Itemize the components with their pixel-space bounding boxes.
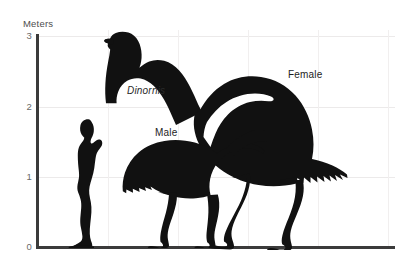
label-male: Male [155, 127, 177, 138]
label-dinornis: Dinornis [127, 85, 165, 96]
label-female: Female [288, 69, 323, 80]
y-tick-0-label: 0 [6, 241, 32, 252]
moa-male-silhouette-shape [122, 130, 268, 248]
gridline-vertical-5 [388, 30, 389, 247]
moa-size-comparison-chart: Meters 3 2 1 0 [0, 0, 419, 264]
y-axis-line [36, 34, 39, 249]
y-axis-title: Meters [23, 18, 53, 29]
y-tick-1-label: 1 [6, 171, 32, 182]
y-tick-3-label: 3 [6, 30, 32, 41]
y-tick-2-label: 2 [6, 101, 32, 112]
moa-male-silhouette [122, 130, 268, 248]
